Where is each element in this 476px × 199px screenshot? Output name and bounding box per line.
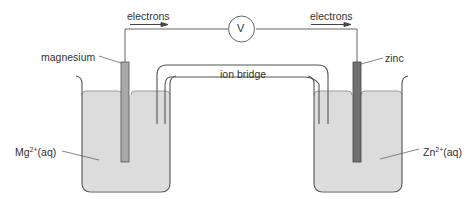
electrochemical-cell-diagram: V electrons electrons magnesium zinc ion… [0,0,476,199]
zn-ion-label: Zn2+(aq) [423,146,462,158]
zn-ion-base: Zn [423,146,435,158]
electrons-label-right: electrons [310,10,353,22]
zn-ion-state: (aq) [443,146,462,158]
ion-bridge-label: ion bridge [220,68,266,80]
magnesium-label: magnesium [41,51,95,63]
zinc-electrode [353,62,361,162]
zinc-label: zinc [385,52,404,64]
voltmeter-label: V [237,22,244,34]
mg-ion-state: (aq) [38,146,57,158]
electrons-label-left: electrons [127,10,170,22]
magnesium-electrode [121,62,129,162]
mg-ion-label: Mg2+(aq) [15,146,56,158]
mg-ion-base: Mg [15,146,30,158]
mg-ion-charge: 2+ [30,146,38,153]
